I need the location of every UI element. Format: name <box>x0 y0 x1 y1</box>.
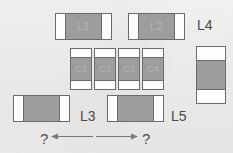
l1-termination-left <box>56 14 65 39</box>
c3-termination-top <box>119 49 139 57</box>
l4-termination-bottom <box>197 90 225 103</box>
l1-marking: L1 <box>77 21 90 32</box>
l2-termination-left <box>129 14 138 39</box>
c3-termination-bottom <box>119 81 139 89</box>
component-l4[interactable] <box>196 46 226 104</box>
l3-body <box>23 96 60 121</box>
c1-body: C1 <box>71 57 91 81</box>
c2-marking: C2 <box>99 64 111 74</box>
dimension-arrow-right <box>96 132 138 141</box>
c4-marking: C4 <box>147 64 159 74</box>
component-l3[interactable] <box>13 95 70 122</box>
l5-body <box>117 96 154 121</box>
l5-termination-right <box>154 96 163 121</box>
component-c3[interactable]: C3 <box>118 48 140 90</box>
l3-termination-right <box>60 96 69 121</box>
l4-termination-top <box>197 47 225 60</box>
dimension-arrow-left <box>51 132 93 141</box>
component-c1[interactable]: C1 <box>70 48 92 90</box>
l2-termination-right <box>175 14 184 39</box>
reference-label-l5: L5 <box>171 109 187 123</box>
reference-label-l3: L3 <box>80 109 96 123</box>
c4-termination-bottom <box>143 81 163 89</box>
component-l5[interactable] <box>107 95 164 122</box>
reference-label-l4: L4 <box>197 18 213 32</box>
l5-termination-left <box>108 96 117 121</box>
c1-termination-bottom <box>71 81 91 89</box>
c4-termination-top <box>143 49 163 57</box>
c4-body: C4 <box>143 57 163 81</box>
dimension-question-left: ? <box>40 131 48 146</box>
l2-marking: L2 <box>150 21 163 32</box>
l3-termination-left <box>14 96 23 121</box>
c1-marking: C1 <box>75 64 87 74</box>
c2-body: C2 <box>95 57 115 81</box>
component-c4[interactable]: C4 <box>142 48 164 90</box>
component-layout-canvas: L1 L2 L4 C1 C2 C3 C4 <box>0 0 233 153</box>
c3-body: C3 <box>119 57 139 81</box>
c2-termination-top <box>95 49 115 57</box>
dimension-question-right: ? <box>142 131 150 146</box>
c2-termination-bottom <box>95 81 115 89</box>
component-c2[interactable]: C2 <box>94 48 116 90</box>
l1-body: L1 <box>65 14 102 39</box>
l2-body: L2 <box>138 14 175 39</box>
component-l1[interactable]: L1 <box>55 13 112 40</box>
c3-marking: C3 <box>123 64 135 74</box>
component-l2[interactable]: L2 <box>128 13 185 40</box>
l4-body <box>197 60 225 90</box>
c1-termination-top <box>71 49 91 57</box>
l1-termination-right <box>102 14 111 39</box>
